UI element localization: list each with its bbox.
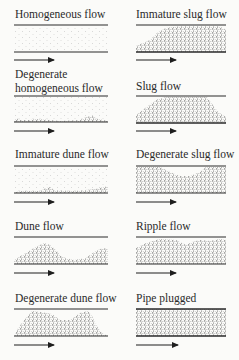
pipe-slug-flow (136, 96, 226, 131)
pipe-immature-dune-flow (14, 166, 108, 202)
pipe-immature-slug-flow (136, 25, 226, 60)
pipe-plugged (136, 309, 226, 345)
pipe-homogeneous-flow (14, 25, 108, 60)
pipe-degenerate-dune-flow (14, 309, 108, 345)
pipe-dune-flow (14, 237, 108, 273)
pipe-degenerate-slug-flow (136, 166, 226, 202)
flow-regime-diagram (0, 0, 239, 360)
pipe-degenerate-homogeneous-flow (14, 96, 108, 131)
pipe-ripple-flow (136, 237, 226, 273)
